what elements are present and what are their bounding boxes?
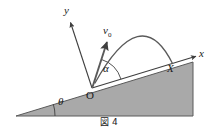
y-axis (71, 23, 93, 89)
initial-velocity-subscript: 0 (108, 31, 112, 39)
incline-angle-label: θ (58, 96, 63, 107)
landing-point-label: X (167, 63, 174, 74)
y-axis-label: y (64, 5, 69, 16)
figure-caption: 図 4 (0, 118, 218, 127)
initial-velocity-label: v0 (103, 25, 111, 39)
x-axis-label: x (199, 48, 204, 59)
origin-label: O (86, 90, 94, 101)
launch-angle-label: α (103, 63, 109, 74)
figure-container: y x v0 α θ O X 図 4 (0, 0, 218, 134)
figure-diagram (0, 0, 218, 134)
